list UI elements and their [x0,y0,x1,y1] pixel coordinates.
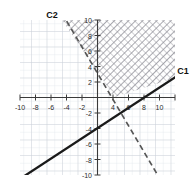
x-tick-label: -4 [63,104,69,111]
x-tick-label: 6 [127,104,131,111]
graph-screenshot: -10 -8 -6 -4 -2 4 6 8 10 10 8 6 4 2 -2 -… [0,0,196,187]
y-tick-label: -8 [86,157,92,164]
x-tick-label: 8 [142,104,146,111]
x-tick-label: -8 [32,104,38,111]
y-tick-label: 6 [88,48,92,55]
y-tick-label: 2 [88,79,92,86]
y-tick-label: 4 [88,64,92,71]
y-tick-label: 8 [88,33,92,40]
x-tick-label: 4 [111,104,115,111]
y-tick-label: -10 [82,172,92,179]
coordinate-plane-chart: -10 -8 -6 -4 -2 4 6 8 10 10 8 6 4 2 -2 -… [0,0,196,187]
x-tick-label: -10 [15,104,25,111]
x-tick-label: 10 [156,104,164,111]
y-tick-label: -2 [86,110,92,117]
y-tick-label: -4 [86,126,92,133]
x-tick-label: -6 [48,104,54,111]
curve-label-c2: C2 [46,10,58,20]
x-tick-label: -2 [79,104,85,111]
y-tick-label: -6 [86,141,92,148]
curve-label-c1: C1 [177,66,189,76]
y-tick-label: 10 [84,17,92,24]
